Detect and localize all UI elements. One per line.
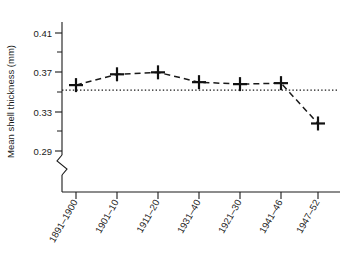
x-tick-label-3: 1931–40 xyxy=(175,198,203,236)
y-tick-label-1: 0.37 xyxy=(34,67,53,78)
plot-area xyxy=(62,65,338,130)
x-tick-label-0: 1891–1900 xyxy=(46,198,79,245)
x-tick-label-4: 1921–30 xyxy=(216,198,244,236)
shell-thickness-line-chart: Mean shell thickness (mm) 0.41 0.37 0.33… xyxy=(0,0,342,253)
x-tick-label-1: 1901–10 xyxy=(93,198,121,236)
data-point-4 xyxy=(233,77,247,91)
x-tick-label-2: 1911–20 xyxy=(134,198,162,235)
y-axis-title: Mean shell thickness (mm) xyxy=(5,45,16,158)
y-axis-title-text: Mean shell thickness (mm) xyxy=(5,45,16,158)
y-axis: 0.41 0.37 0.33 0.29 xyxy=(34,22,68,192)
y-tick-label-2: 0.33 xyxy=(34,107,53,118)
data-point-3 xyxy=(192,75,206,89)
y-tick-label-3: 0.29 xyxy=(34,146,53,157)
x-axis: 1891–1900 1901–10 1911–20 1931–40 1921–3… xyxy=(46,192,340,244)
chart-container: Mean shell thickness (mm) 0.41 0.37 0.33… xyxy=(0,0,342,253)
data-point-2 xyxy=(151,65,165,79)
x-tick-label-6: 1947–52 xyxy=(294,198,322,236)
x-tick-label-5: 1941–46 xyxy=(257,198,285,236)
y-tick-label-0: 0.41 xyxy=(34,28,53,39)
axis-break-marker xyxy=(57,155,67,175)
data-point-1 xyxy=(110,67,124,81)
